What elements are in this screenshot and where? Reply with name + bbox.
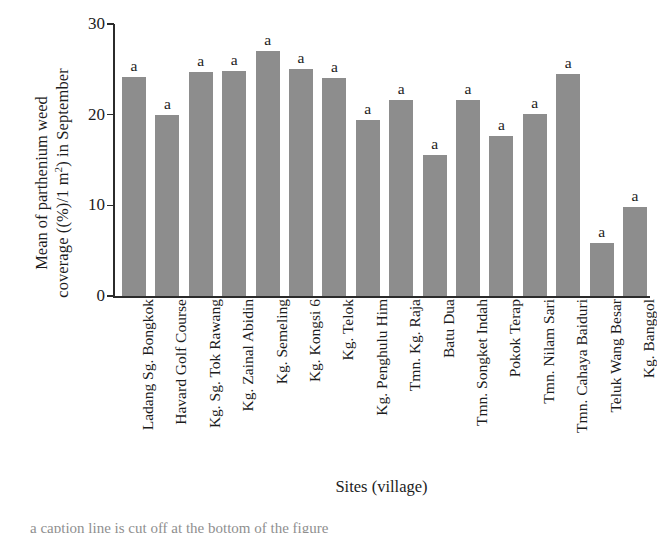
bar[interactable]: [256, 51, 280, 296]
x-axis-category-labels: Ladang Sg. BongkokHavard Golf CourseKg. …: [113, 299, 650, 467]
x-category-label: Kg. Sg. Tok Rawang: [189, 299, 213, 465]
plot-area: aaaaaaaaaaaaaaaa: [113, 24, 650, 296]
y-axis-title-line2-post: ) in September: [53, 68, 72, 167]
bar-slot: a: [189, 24, 213, 296]
bar[interactable]: [222, 71, 246, 296]
x-category-label-text: Kg. Kongsi 6: [307, 299, 323, 382]
bar[interactable]: [590, 243, 614, 296]
x-category-label-text: Kg. Zainal Abidin: [240, 299, 256, 411]
x-category-label-text: Ladang Sg. Bongkok: [140, 299, 156, 430]
bar-slot: a: [322, 24, 346, 296]
bar[interactable]: [189, 72, 213, 296]
y-tick-label-0: 0: [97, 287, 106, 304]
bar-slot: a: [122, 24, 146, 296]
y-tick-label-20: 20: [88, 106, 105, 123]
x-axis-title: Sites (village): [113, 477, 650, 497]
x-category-label-text: Batu Dua: [441, 299, 457, 358]
bar-significance-label: a: [322, 59, 346, 74]
bar-significance-label: a: [523, 95, 547, 110]
bar[interactable]: [556, 74, 580, 296]
bar[interactable]: [389, 100, 413, 296]
bar-series: aaaaaaaaaaaaaaaa: [113, 24, 650, 296]
bar[interactable]: [289, 69, 313, 296]
x-category-label: Tmn. Kg. Raja: [389, 299, 413, 465]
bar-slot: a: [222, 24, 246, 296]
bar-slot: a: [456, 24, 480, 296]
bar-slot: a: [623, 24, 647, 296]
bar-significance-label: a: [155, 96, 179, 111]
bar[interactable]: [356, 120, 380, 296]
bar[interactable]: [523, 114, 547, 296]
bar-slot: a: [289, 24, 313, 296]
x-category-label-text: Tmn. Songket Indah: [474, 299, 490, 426]
bar-slot: a: [356, 24, 380, 296]
bar-significance-label: a: [556, 55, 580, 70]
y-axis-tick-labels: 0102030: [72, 24, 105, 296]
x-category-label-text: Kg. Semeling: [274, 299, 290, 384]
bar-significance-label: a: [590, 224, 614, 239]
x-category-label: Tmn. Songket Indah: [456, 299, 480, 465]
bar-significance-label: a: [389, 81, 413, 96]
bar-significance-label: a: [423, 136, 447, 151]
bar[interactable]: [456, 100, 480, 296]
bar-slot: a: [256, 24, 280, 296]
y-axis-title-line1: Mean of parthenium weed: [31, 96, 52, 270]
bar-significance-label: a: [456, 81, 480, 96]
y-tick-label-30: 30: [88, 15, 105, 32]
bar[interactable]: [122, 77, 146, 296]
bar-significance-label: a: [356, 101, 380, 116]
x-category-label-text: Tmn. Cahaya Baiduri: [574, 299, 590, 433]
x-category-label: Kg. Banggol: [623, 299, 647, 465]
bar-slot: a: [155, 24, 179, 296]
bar-significance-label: a: [222, 52, 246, 67]
bar-significance-label: a: [189, 53, 213, 68]
bar[interactable]: [489, 136, 513, 296]
x-category-label-text: Teluk Wang Besar: [608, 299, 624, 413]
bar-slot: a: [556, 24, 580, 296]
figure-caption-sliver: a caption line is cut off at the bottom …: [30, 520, 625, 533]
y-tick-label-10: 10: [88, 196, 105, 213]
bar-significance-label: a: [623, 188, 647, 203]
bar[interactable]: [623, 207, 647, 296]
x-category-label-text: Kg. Banggol: [641, 299, 657, 378]
y-axis-title-line2: coverage ((%)/1 m2) in September: [52, 68, 73, 298]
x-category-label: Havard Golf Course: [155, 299, 179, 465]
x-category-label-text: Tmn. Nilam Sari: [541, 299, 557, 404]
bar-slot: a: [590, 24, 614, 296]
bar-significance-label: a: [122, 58, 146, 73]
x-category-label: Kg. Penghulu Him: [356, 299, 380, 465]
x-category-label-text: Kg. Penghulu Him: [374, 299, 390, 416]
bar-slot: a: [423, 24, 447, 296]
bar[interactable]: [423, 155, 447, 296]
bar-slot: a: [489, 24, 513, 296]
x-category-label: Tmn. Cahaya Baiduri: [556, 299, 580, 465]
x-category-label: Batu Dua: [423, 299, 447, 465]
bar[interactable]: [322, 78, 346, 296]
y-axis-title: Mean of parthenium weed coverage ((%)/1 …: [29, 33, 75, 333]
bar-significance-label: a: [289, 50, 313, 65]
x-category-label: Kg. Semeling: [256, 299, 280, 465]
bar[interactable]: [155, 115, 179, 296]
x-category-label-text: Tmn. Kg. Raja: [407, 299, 423, 391]
x-category-label-text: Havard Golf Course: [173, 299, 189, 425]
bar-slot: a: [523, 24, 547, 296]
x-category-label: Tmn. Nilam Sari: [523, 299, 547, 465]
bar-significance-label: a: [489, 117, 513, 132]
x-axis-line: [113, 296, 650, 298]
x-category-label: Teluk Wang Besar: [590, 299, 614, 465]
y-axis-title-superscript: 2: [52, 167, 64, 173]
x-category-label-text: Kg. Sg. Tok Rawang: [207, 299, 223, 428]
x-category-label: Ladang Sg. Bongkok: [122, 299, 146, 465]
bar-slot: a: [389, 24, 413, 296]
x-category-label: Kg. Kongsi 6: [289, 299, 313, 465]
bar-significance-label: a: [256, 32, 280, 47]
y-axis-title-line2-pre: coverage ((%)/1 m: [53, 172, 72, 297]
x-category-label: Kg. Telok: [322, 299, 346, 465]
x-category-label-text: Pokok Terap: [507, 299, 523, 377]
x-category-label: Kg. Zainal Abidin: [222, 299, 246, 465]
x-category-label: Pokok Terap: [489, 299, 513, 465]
x-category-label-text: Kg. Telok: [340, 299, 356, 361]
